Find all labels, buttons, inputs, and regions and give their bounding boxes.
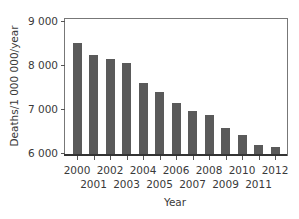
- x-tick: [226, 156, 227, 160]
- x-tick: [176, 156, 177, 160]
- y-axis-title: Deaths/1 000 000/year: [8, 16, 20, 156]
- x-tick-label: 2008: [194, 164, 224, 176]
- x-tick-label: 2006: [161, 164, 191, 176]
- bar-2008: [205, 115, 214, 154]
- y-tick: [61, 153, 65, 154]
- bar-2003: [122, 63, 131, 154]
- x-tick: [143, 156, 144, 160]
- x-tick: [77, 156, 78, 160]
- x-tick-label: 2002: [95, 164, 125, 176]
- bar-2002: [106, 59, 115, 154]
- x-tick-label: 2009: [211, 178, 241, 190]
- bar-2004: [139, 83, 148, 154]
- y-tick-label: 6 000: [14, 147, 58, 159]
- x-tick: [275, 156, 276, 160]
- x-tick-label: 2010: [227, 164, 257, 176]
- y-tick: [61, 65, 65, 66]
- bar-2005: [155, 92, 164, 154]
- bar-2007: [188, 111, 197, 154]
- bar-2001: [89, 55, 98, 154]
- bar-2000: [73, 43, 82, 154]
- y-tick: [61, 109, 65, 110]
- x-tick-label: 2003: [112, 178, 142, 190]
- x-tick-label: 2012: [260, 164, 290, 176]
- x-tick: [127, 156, 128, 160]
- x-tick-label: 2000: [62, 164, 92, 176]
- x-tick: [193, 156, 194, 160]
- bar-2011: [254, 145, 263, 154]
- x-tick: [242, 156, 243, 160]
- bar-2010: [238, 135, 247, 154]
- y-tick-label: 8 000: [14, 59, 58, 71]
- bar-2006: [172, 103, 181, 154]
- y-tick: [61, 21, 65, 22]
- x-tick: [209, 156, 210, 160]
- y-tick-label: 7 000: [14, 103, 58, 115]
- bar-2012: [271, 147, 280, 154]
- x-tick-label: 2004: [128, 164, 158, 176]
- x-tick: [94, 156, 95, 160]
- x-tick-label: 2001: [79, 178, 109, 190]
- x-axis-title: Year: [145, 196, 205, 208]
- x-tick: [160, 156, 161, 160]
- x-tick: [110, 156, 111, 160]
- y-tick-label: 9 000: [14, 15, 58, 27]
- x-tick-label: 2011: [244, 178, 274, 190]
- x-tick-label: 2007: [178, 178, 208, 190]
- bar-chart: 6 0007 0008 0009 000 2000200120022003200…: [0, 0, 299, 219]
- x-tick-label: 2005: [145, 178, 175, 190]
- bar-2009: [221, 128, 230, 154]
- x-tick: [259, 156, 260, 160]
